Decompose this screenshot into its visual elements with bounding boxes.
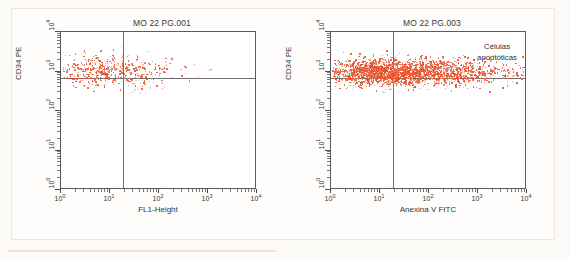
y-tick-minor [327, 165, 331, 166]
data-point [210, 69, 211, 70]
data-point [75, 81, 77, 83]
y-tick-label: 104 [315, 20, 324, 40]
data-point [416, 68, 417, 69]
x-tick-label: 103 [202, 193, 213, 202]
data-point [387, 54, 388, 55]
y-tick-major [55, 31, 60, 32]
data-point [361, 67, 362, 68]
x-tick-minor [98, 189, 99, 192]
x-tick-label: 104 [521, 193, 532, 202]
data-point-faint [382, 91, 384, 93]
data-point [392, 75, 394, 77]
data-point [102, 70, 104, 72]
data-point [128, 67, 129, 68]
data-point [503, 64, 505, 66]
y-tick-label: 102 [315, 99, 324, 119]
data-point [356, 82, 358, 84]
data-point [445, 82, 446, 83]
data-point [164, 69, 165, 70]
x-tick-minor [237, 189, 238, 192]
data-point [98, 79, 100, 81]
data-point [431, 77, 432, 78]
data-point [372, 66, 374, 68]
data-point [393, 80, 394, 81]
data-point [148, 74, 150, 76]
y-tick-minor [327, 35, 331, 36]
x-tick-minor [451, 189, 452, 192]
data-point [122, 63, 124, 65]
x-tick-minor [188, 189, 189, 192]
data-point [429, 78, 431, 80]
cytometry-panel-1[interactable]: MO 22 PG.001 CD34 PE FL1-Height 10010110… [20, 8, 280, 238]
data-point-faint [132, 91, 134, 93]
data-point [522, 75, 523, 76]
data-point [434, 79, 435, 80]
data-point [153, 78, 155, 80]
data-point [444, 68, 445, 69]
data-point [146, 79, 148, 81]
data-point [411, 78, 412, 79]
scatter-plot-area[interactable]: Células apoptóticas [330, 31, 526, 189]
data-point [384, 70, 386, 72]
data-point [484, 82, 486, 84]
x-tick-minor [492, 189, 493, 192]
data-point [63, 67, 65, 69]
data-point [431, 69, 432, 70]
data-point [366, 73, 368, 75]
data-point [360, 87, 362, 89]
data-point [409, 73, 411, 75]
data-point [145, 71, 147, 73]
data-point [141, 88, 143, 90]
scatter-plot-area[interactable] [60, 31, 256, 189]
data-point [136, 60, 137, 61]
data-point [130, 78, 132, 80]
x-tick-minor [417, 189, 418, 192]
x-tick-minor [245, 189, 246, 192]
data-point [388, 84, 390, 86]
data-point-faint [135, 80, 137, 82]
data-point [354, 68, 356, 70]
data-point [144, 62, 145, 63]
vertical-gate-line[interactable] [393, 32, 394, 188]
data-point [443, 74, 444, 75]
data-point [426, 79, 427, 80]
x-tick-minor [104, 189, 105, 192]
x-tick-minor [101, 189, 102, 192]
data-point [453, 57, 455, 59]
y-tick-minor [327, 156, 331, 157]
data-point [92, 58, 94, 60]
data-point [347, 87, 348, 88]
annotation-line-2: apoptóticas [477, 53, 517, 64]
data-point [342, 66, 343, 67]
data-point [425, 57, 427, 59]
data-point [129, 81, 131, 83]
data-point [337, 60, 338, 61]
data-point [112, 55, 114, 57]
x-tick-minor [153, 189, 154, 192]
data-point [423, 76, 425, 78]
data-point [122, 60, 123, 61]
data-point [396, 84, 398, 86]
data-point [450, 75, 452, 77]
data-point [466, 78, 467, 79]
x-tick-minor [181, 189, 182, 192]
data-point [86, 74, 87, 75]
data-point [373, 72, 374, 73]
y-tick-minor [327, 122, 331, 123]
cytometry-panel-2[interactable]: MO 22 PG.003 CD34 PE Anexina V FITC Célu… [290, 8, 550, 238]
data-point [525, 64, 526, 65]
data-point [125, 63, 127, 65]
data-point [139, 66, 140, 67]
data-point [136, 55, 137, 56]
data-point [159, 75, 161, 77]
data-point [371, 62, 373, 64]
data-point [368, 73, 369, 74]
data-point [367, 82, 368, 83]
data-point [521, 78, 523, 80]
data-point [366, 69, 367, 70]
data-point [166, 68, 168, 70]
data-point [92, 84, 94, 86]
y-tick-minor [57, 116, 61, 117]
data-point [396, 73, 397, 74]
data-point [430, 65, 432, 67]
